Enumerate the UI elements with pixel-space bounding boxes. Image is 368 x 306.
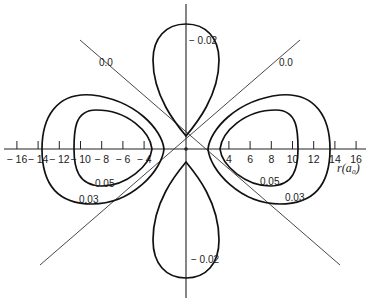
origin-point	[184, 147, 188, 151]
x-tick-label: 12	[308, 153, 320, 165]
contour-label-top: − 0.02	[189, 35, 218, 46]
contour-label-right-0.05: 0.05	[260, 176, 280, 187]
x-axis-label: r(a₀)	[337, 161, 360, 175]
contour-left-0.05	[74, 110, 152, 186]
contour-label-left-0.03: 0.03	[79, 194, 99, 205]
x-tick-label: − 6	[115, 153, 130, 165]
x-tick-label: − 8	[94, 153, 109, 165]
contour-right-0.05	[220, 110, 298, 186]
x-tick-label: 8	[268, 153, 274, 165]
x-tick-label: 6	[247, 153, 253, 165]
nodal-label-right: 0.0	[279, 57, 293, 68]
contour-label-right-0.03: 0.03	[285, 192, 305, 203]
x-tick-label: − 14	[28, 153, 49, 165]
contour-label-bottom: − 0.02	[191, 254, 220, 265]
x-tick-label: − 10	[70, 153, 91, 165]
x-tick-label: − 12	[49, 153, 70, 165]
contour-label-left-0.05: 0.05	[95, 178, 115, 189]
nodal-label-left: 0.0	[99, 57, 113, 68]
x-tick-label: − 16	[7, 153, 28, 165]
contour-plot: − 16− 14− 12− 10− 8− 6− 446810121416 0.0…	[0, 0, 368, 306]
